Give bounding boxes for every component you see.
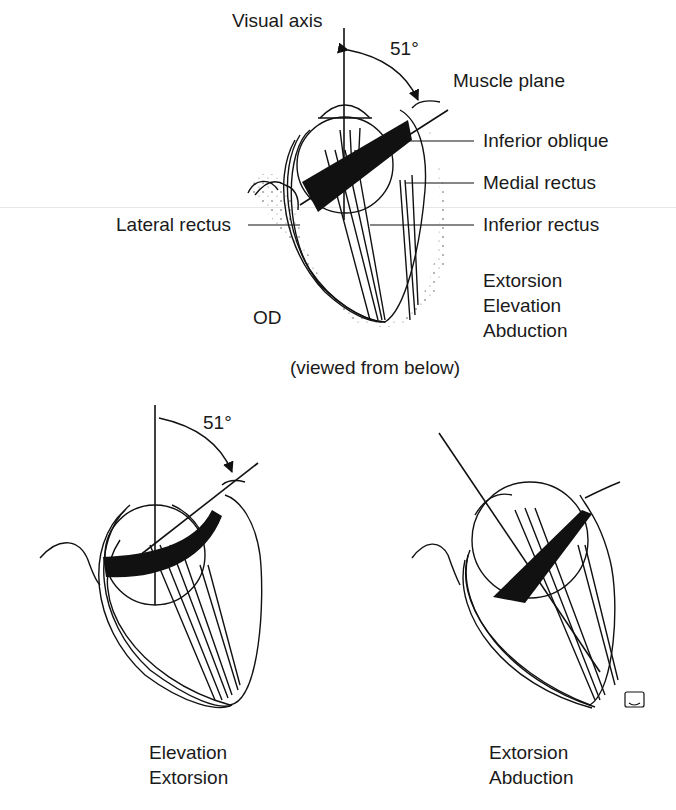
medial-rectus-label: Medial rectus (483, 172, 596, 194)
eye-side-label: OD (253, 307, 282, 329)
eye-muscle-diagram (0, 0, 676, 810)
bottom-left-action-item: Extorsion (149, 765, 228, 790)
bottom-right-action-item: Extorsion (489, 740, 574, 765)
bottom-right-action-item: Abduction (489, 765, 574, 790)
muscle-plane-label: Muscle plane (453, 70, 565, 92)
inferior-oblique-band-right (493, 510, 592, 603)
inferior-oblique-band-top (302, 120, 412, 212)
lateral-rectus-label: Lateral rectus (116, 214, 231, 236)
top-action-item: Elevation (483, 293, 568, 318)
angle-label-top: 51° (390, 38, 419, 60)
bottom-left-actions: Elevation Extorsion (149, 740, 228, 790)
inferior-oblique-label: Inferior oblique (483, 130, 609, 152)
view-caption: (viewed from below) (290, 357, 460, 379)
bottom-left-action-item: Elevation (149, 740, 228, 765)
bottom-right-eye-figure (412, 433, 620, 708)
inferior-rectus-label: Inferior rectus (483, 214, 599, 236)
top-actions-list: Extorsion Elevation Abduction (483, 268, 568, 343)
visual-axis-label: Visual axis (232, 10, 322, 32)
bottom-right-actions: Extorsion Abduction (489, 740, 574, 790)
angle-label-bottom-left: 51° (203, 412, 232, 434)
top-action-item: Abduction (483, 318, 568, 343)
signature-mark (625, 692, 644, 707)
top-action-item: Extorsion (483, 268, 568, 293)
